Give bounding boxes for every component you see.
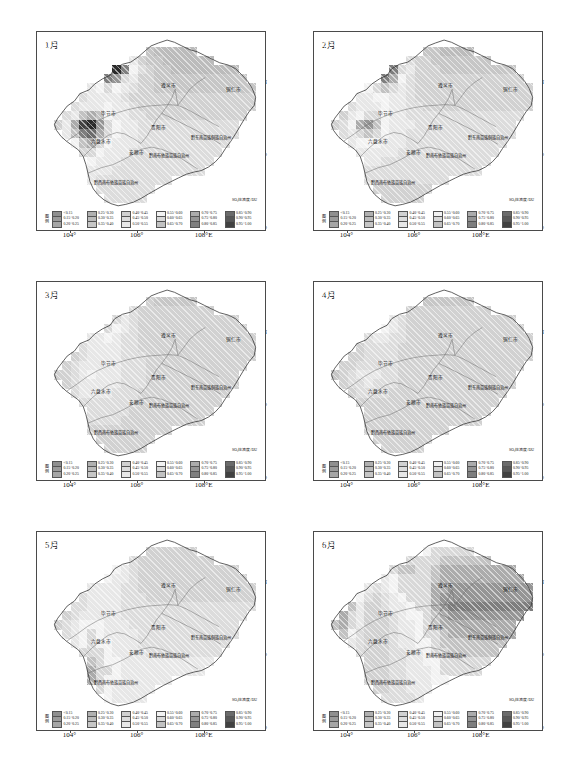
legend-label: 0.45~0.50	[410, 467, 425, 471]
city-label: 贵阳市	[428, 624, 443, 630]
legend-label: 0.95~1.00	[513, 473, 528, 477]
city-label: 贵阳市	[428, 124, 443, 130]
legend-swatch	[87, 471, 97, 477]
legend-grid: 图例<0.150.15~0.200.20~0.250.25~0.300.30~0…	[43, 711, 257, 727]
legend-label: 0.50~0.55	[133, 473, 148, 477]
legend-label: 0.80~0.85	[202, 473, 217, 477]
legend-swatch	[329, 471, 339, 477]
prefecture-boundary	[178, 577, 206, 605]
legend-label: 0.15~0.20	[341, 717, 356, 721]
prefecture-boundary	[455, 605, 496, 626]
legend-swatch	[52, 721, 62, 727]
city-label: 贵阳市	[151, 374, 166, 380]
legend-label: 0.95~1.00	[236, 723, 251, 727]
prefecture-boundary	[455, 105, 496, 126]
legend-swatch	[87, 221, 97, 227]
city-label: 毕节市	[101, 360, 116, 366]
legend-item: 0.50~0.55	[398, 722, 431, 727]
legend-swatch	[87, 721, 97, 727]
city-label: 铜仁市	[503, 86, 518, 92]
legend-item: 0.35~0.40	[87, 722, 120, 727]
legend-side-char: 例	[45, 219, 49, 224]
legend-title: SO₂柱浓度/DU	[232, 196, 257, 202]
legend-label: 0.95~1.00	[236, 223, 251, 227]
legend-item: 0.95~1.00	[502, 222, 535, 227]
city-label: 黔南布依族苗族自治州	[149, 152, 189, 158]
prefecture-boundary	[141, 647, 198, 669]
legend-item: 0.50~0.55	[121, 722, 154, 727]
legend-swatch	[225, 721, 235, 727]
legend-swatch	[52, 471, 62, 477]
legend-label: 0.80~0.85	[479, 723, 494, 727]
legend-swatch	[156, 471, 166, 477]
legend-title: SO₂柱浓度/DU	[232, 696, 257, 702]
legend-side-char: 例	[45, 719, 49, 724]
legend-label: 0.60~0.65	[167, 467, 182, 471]
city-label: 铜仁市	[226, 86, 241, 92]
legend-item: 0.50~0.55	[398, 222, 431, 227]
legend-item: 0.65~0.70	[156, 472, 189, 477]
prefecture-boundary	[418, 647, 475, 669]
legend-label: 0.35~0.40	[98, 473, 113, 477]
map-panel-2: 28°N26°24°104°106°108°E2月遵义市铜仁市毕节市贵阳市六盘水…	[285, 25, 544, 257]
city-label: 遵义市	[161, 332, 176, 338]
prefecture-boundary	[178, 77, 206, 105]
city-label: 黔西南布依族苗族自治州	[371, 429, 415, 435]
legend-title: SO₂柱浓度/DU	[232, 446, 257, 452]
legend-item: 0.20~0.25	[329, 722, 362, 727]
city-label: 黔西南布依族苗族自治州	[371, 679, 415, 685]
legend: SO₂柱浓度/DU图例<0.150.15~0.200.20~0.250.25~0…	[320, 211, 534, 227]
city-label: 黔西南布依族苗族自治州	[94, 429, 138, 435]
legend-label: 0.35~0.40	[375, 723, 390, 727]
map-panel-5: 28°N26°24°104°106°108°E5月遵义市铜仁市毕节市贵阳市六盘水…	[8, 525, 267, 757]
legend-item: 0.80~0.85	[467, 222, 500, 227]
prefecture-boundary	[141, 397, 198, 419]
prefecture-boundary	[178, 605, 219, 626]
legend-label: 0.30~0.35	[98, 467, 113, 471]
city-label: 黔西南布依族苗族自治州	[94, 679, 138, 685]
legend-label: 0.65~0.70	[444, 473, 459, 477]
city-label: 铜仁市	[226, 586, 241, 592]
legend-swatch	[467, 471, 477, 477]
legend-swatch	[398, 721, 408, 727]
panel-frame: 4月遵义市铜仁市毕节市贵阳市六盘水市安顺市黔东南苗族侗族自治州黔南布依族苗族自治…	[313, 281, 543, 481]
legend-item: 0.65~0.70	[433, 472, 466, 477]
legend-item: 0.95~1.00	[502, 722, 535, 727]
legend-grid: 图例<0.150.15~0.200.20~0.250.25~0.300.30~0…	[320, 461, 534, 477]
panel-frame: 2月遵义市铜仁市毕节市贵阳市六盘水市安顺市黔东南苗族侗族自治州黔南布依族苗族自治…	[313, 31, 543, 231]
legend-grid: 图例<0.150.15~0.200.20~0.250.25~0.300.30~0…	[43, 211, 257, 227]
legend-swatch	[364, 721, 374, 727]
legend-swatch	[364, 471, 374, 477]
legend-label: 0.20~0.25	[341, 223, 356, 227]
prefecture-boundary	[439, 339, 455, 363]
legend-item: 0.80~0.85	[467, 722, 500, 727]
city-label: 黔东南苗族侗族自治州	[191, 634, 231, 640]
legend-label: 0.60~0.65	[444, 717, 459, 721]
legend-item: 0.95~1.00	[225, 472, 258, 477]
legend-swatch	[190, 221, 200, 227]
legend-title: SO₂柱浓度/DU	[509, 696, 534, 702]
prefecture-boundary	[418, 397, 475, 419]
legend-swatch	[156, 721, 166, 727]
legend-label: 0.15~0.20	[64, 467, 79, 471]
prefecture-boundary	[439, 589, 455, 613]
legend-label: 0.30~0.35	[98, 717, 113, 721]
legend-item: 0.20~0.25	[329, 472, 362, 477]
prefecture-boundary	[439, 89, 455, 113]
prefecture-boundary	[455, 327, 483, 355]
city-label: 安顺市	[129, 149, 144, 155]
city-label: 黔南布依族苗族自治州	[149, 652, 189, 658]
legend-label: 0.50~0.55	[410, 223, 425, 227]
legend-label: 0.50~0.55	[133, 723, 148, 727]
legend-label: 0.35~0.40	[375, 473, 390, 477]
city-label: 黔南布依族苗族自治州	[426, 152, 466, 158]
legend-label: 0.90~0.95	[236, 717, 251, 721]
boundary-layer	[314, 282, 542, 480]
city-label: 安顺市	[129, 399, 144, 405]
legend-side-label: 图例	[320, 214, 327, 224]
legend-item: 0.65~0.70	[433, 222, 466, 227]
map-area: 遵义市铜仁市毕节市贵阳市六盘水市安顺市黔东南苗族侗族自治州黔南布依族苗族自治州黔…	[314, 32, 542, 230]
city-label: 黔东南苗族侗族自治州	[468, 634, 508, 640]
legend-label: 0.90~0.95	[513, 217, 528, 221]
legend-item: 0.20~0.25	[52, 722, 85, 727]
